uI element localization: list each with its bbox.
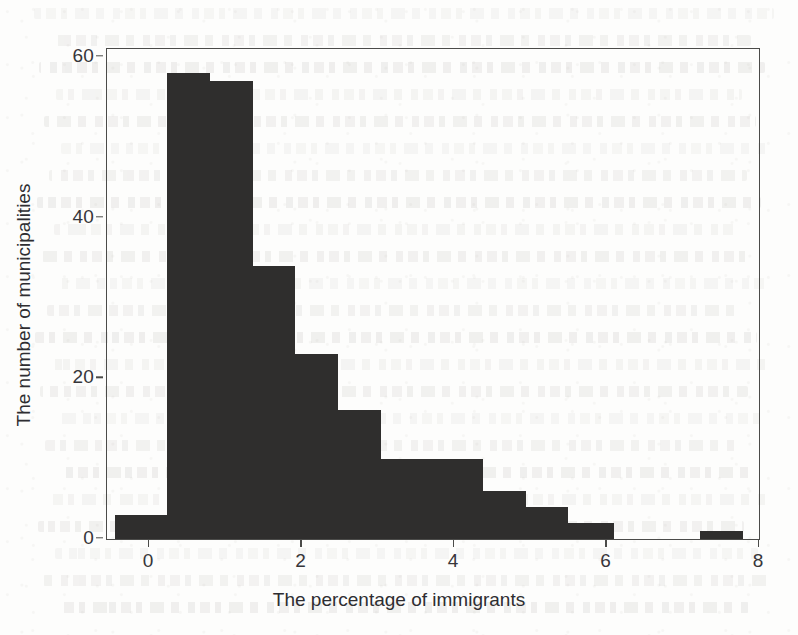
x-axis-tick-mark (148, 540, 149, 547)
histogram-bar (210, 81, 253, 539)
x-axis-title: The percentage of immigrants (0, 589, 798, 611)
y-axis-tick-label: 40 (72, 206, 94, 228)
histogram-bar (700, 531, 743, 539)
bars-layer (107, 49, 759, 539)
histogram-figure: The number of municipalities 0204060 The… (0, 0, 798, 635)
y-axis-tick-mark (96, 216, 103, 217)
y-axis-tick-mark (96, 537, 103, 538)
histogram-bar (568, 523, 614, 539)
x-axis-tick-mark (453, 540, 454, 547)
x-axis-tick-label: 0 (143, 550, 154, 572)
histogram-bar (295, 354, 338, 539)
y-axis-title: The number of municipalities (13, 85, 35, 525)
histogram-bar (253, 266, 296, 539)
x-axis-tick-label: 2 (295, 550, 306, 572)
x-axis-tick-mark (758, 540, 759, 547)
histogram-bar (381, 459, 424, 539)
x-axis-tick-mark (300, 540, 301, 547)
histogram-bar (423, 459, 482, 539)
x-axis-tick-label: 6 (600, 550, 611, 572)
histogram-bar (115, 515, 167, 539)
y-axis-tick-mark (96, 55, 103, 56)
y-axis-tick-mark (96, 377, 103, 378)
page-canvas: The number of municipalities 0204060 The… (0, 0, 798, 635)
y-axis-tick-label: 20 (72, 366, 94, 388)
x-axis-tick-label: 8 (753, 550, 764, 572)
histogram-bar (526, 507, 569, 539)
x-axis-tick-mark (605, 540, 606, 547)
histogram-bar (167, 73, 210, 539)
y-axis-tick-label: 60 (72, 45, 94, 67)
x-axis: The percentage of immigrants 02468 (0, 540, 798, 635)
x-axis-tick-label: 4 (448, 550, 459, 572)
histogram-bar (338, 410, 381, 539)
histogram-bar (483, 491, 526, 539)
plot-area (106, 48, 760, 540)
